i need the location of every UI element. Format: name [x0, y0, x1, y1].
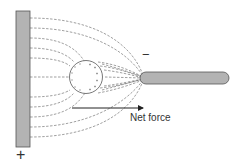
polarization-diagram [0, 0, 243, 168]
neutral-sphere [70, 61, 103, 94]
net-force-label: Net force [130, 112, 171, 123]
negative-rod [140, 72, 229, 84]
negative-charge-label: − [142, 47, 150, 62]
positive-charge-label: + [16, 146, 25, 164]
positive-plate [16, 11, 30, 147]
